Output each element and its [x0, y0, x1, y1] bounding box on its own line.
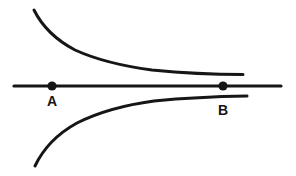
asymptote-diagram: A B [0, 0, 296, 176]
point-b-label: B [218, 102, 228, 118]
point-a-label: A [47, 93, 57, 109]
point-b-dot [218, 81, 227, 90]
diagram-svg: A B [0, 0, 296, 176]
point-a-dot [47, 81, 56, 90]
